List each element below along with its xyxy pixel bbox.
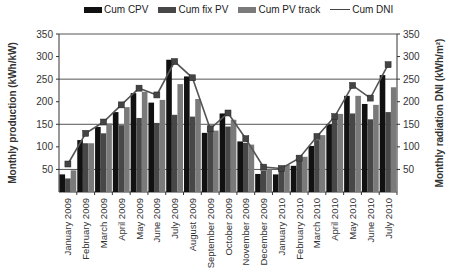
- bar-cum-fix-pv: [207, 130, 213, 192]
- bar-cum-fix-pv: [296, 160, 302, 192]
- bar-cum-cpv: [237, 141, 243, 192]
- bar-cum-fix-pv: [154, 123, 160, 192]
- bar-cum-pv-track: [320, 135, 326, 192]
- x-tick-label: March 2009: [98, 198, 109, 248]
- marker-cum-dni: [100, 119, 106, 125]
- marker-cum-dni: [332, 114, 338, 120]
- bar-cum-pv-track: [391, 87, 397, 192]
- marker-cum-dni: [296, 155, 302, 161]
- bar-cum-cpv: [309, 146, 315, 192]
- bar-cum-fix-pv: [332, 118, 338, 192]
- x-tick-label: February 2009: [80, 198, 91, 260]
- y2-tick-label: 250: [403, 74, 420, 85]
- y-tick-label: 200: [36, 96, 53, 107]
- bar-cum-cpv: [291, 166, 297, 192]
- bar-cum-pv-track: [355, 96, 361, 192]
- bar-cum-fix-pv: [190, 117, 196, 192]
- bar-cum-cpv: [202, 133, 208, 192]
- bar-cum-cpv: [148, 103, 154, 192]
- marker-cum-dni: [65, 161, 71, 167]
- bar-cum-cpv: [362, 104, 368, 192]
- bar-cum-pv-track: [106, 123, 112, 192]
- bar-cum-pv-track: [88, 143, 94, 192]
- y2-tick-label: 350: [403, 29, 420, 40]
- x-tick-label: January 2010: [276, 198, 287, 256]
- bar-cum-fix-pv: [279, 169, 285, 192]
- bar-cum-cpv: [220, 113, 226, 192]
- bar-cum-pv-track: [266, 169, 272, 192]
- bar-cum-pv-track: [373, 105, 379, 192]
- bar-cum-fix-pv: [368, 119, 374, 192]
- bar-cum-fix-pv: [314, 140, 320, 192]
- bar-cum-pv-track: [284, 165, 290, 192]
- y-tick-label: 150: [36, 119, 53, 130]
- marker-cum-dni: [367, 95, 373, 101]
- y-tick-label: 250: [36, 74, 53, 85]
- marker-cum-dni: [225, 110, 231, 116]
- x-tick-label: March 2010: [311, 198, 322, 248]
- marker-cum-dni: [350, 82, 356, 88]
- x-tick-label: May 2010: [347, 198, 358, 240]
- y2-tick-label: 150: [403, 119, 420, 130]
- bar-cum-cpv: [59, 174, 65, 192]
- x-tick-label: April 2009: [116, 198, 127, 241]
- bar-cum-fix-pv: [83, 143, 89, 192]
- marker-cum-dni: [154, 92, 160, 98]
- y-tick-label: 350: [36, 29, 53, 40]
- y2-axis-title: Monthly radiation DNI (kWh/m²): [434, 39, 445, 188]
- marker-cum-dni: [207, 126, 213, 132]
- bar-cum-pv-track: [302, 157, 308, 192]
- y-axis-title: Monthly production (kWh/kW): [7, 42, 18, 184]
- marker-cum-dni: [385, 62, 391, 68]
- x-tick-label: January 2009: [62, 198, 73, 256]
- marker-cum-dni: [243, 136, 249, 142]
- marker-cum-dni: [118, 102, 124, 108]
- y-tick-label: 50: [42, 164, 54, 175]
- y2-tick-label: 300: [403, 51, 420, 62]
- bar-cum-pv-track: [160, 100, 166, 192]
- bar-cum-fix-pv: [225, 127, 231, 192]
- bar-cum-pv-track: [213, 131, 219, 192]
- bar-cum-cpv: [255, 174, 261, 192]
- marker-cum-dni: [189, 75, 195, 81]
- x-tick-label: December 2009: [258, 198, 269, 266]
- x-tick-label: July 2010: [383, 198, 394, 239]
- marker-cum-dni: [136, 85, 142, 91]
- bar-cum-fix-pv: [101, 133, 107, 192]
- bar-cum-cpv: [113, 112, 119, 192]
- y2-tick-label: 200: [403, 96, 420, 107]
- x-tick-label: November 2009: [240, 198, 251, 266]
- bar-cum-fix-pv: [261, 171, 267, 192]
- x-tick-label: April 2010: [329, 198, 340, 241]
- y-tick-label: 100: [36, 141, 53, 152]
- bar-cum-cpv: [344, 96, 350, 192]
- x-tick-label: August 2009: [187, 198, 198, 251]
- bar-cum-fix-pv: [172, 115, 178, 192]
- bar-cum-cpv: [326, 124, 332, 192]
- bar-cum-fix-pv: [118, 125, 124, 192]
- marker-cum-dni: [172, 59, 178, 65]
- bar-cum-fix-pv: [385, 112, 391, 192]
- bar-cum-cpv: [184, 76, 190, 192]
- x-tick-label: June 2009: [151, 198, 162, 242]
- bar-cum-fix-pv: [350, 113, 356, 192]
- marker-cum-dni: [83, 130, 89, 136]
- bar-cum-fix-pv: [136, 118, 142, 192]
- y-tick-label: 300: [36, 51, 53, 62]
- y2-tick-label: 100: [403, 141, 420, 152]
- marker-cum-dni: [261, 164, 267, 170]
- marker-cum-dni: [278, 166, 284, 172]
- y2-tick-label: 50: [403, 164, 415, 175]
- bar-cum-pv-track: [124, 107, 130, 192]
- x-tick-label: February 2010: [294, 198, 305, 260]
- bar-cum-cpv: [95, 127, 101, 192]
- bar-cum-pv-track: [177, 84, 183, 192]
- bar-cum-cpv: [166, 60, 172, 192]
- x-tick-label: June 2010: [365, 198, 376, 242]
- marker-cum-dni: [314, 133, 320, 139]
- x-tick-label: May 2009: [134, 198, 145, 240]
- bar-cum-pv-track: [142, 92, 148, 192]
- bar-cum-fix-pv: [243, 143, 249, 192]
- bar-cum-cpv: [273, 174, 279, 192]
- bar-cum-cpv: [131, 93, 137, 192]
